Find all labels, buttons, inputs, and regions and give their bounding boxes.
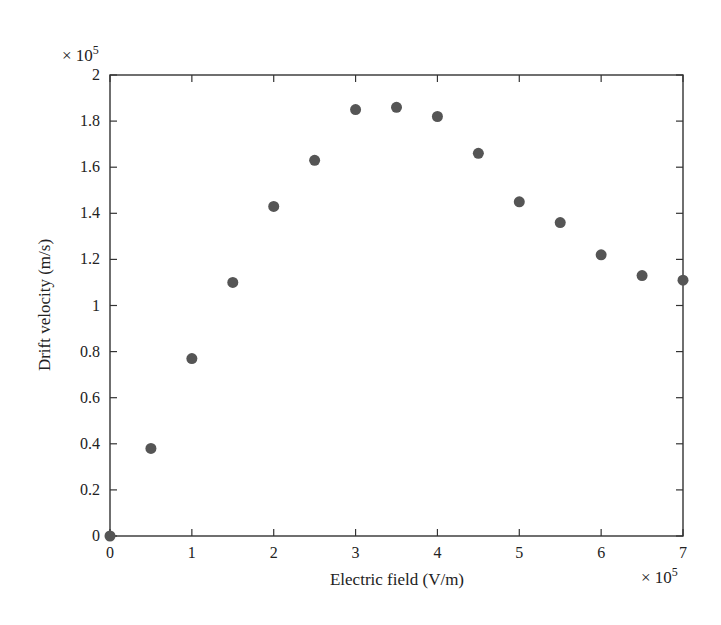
data-point bbox=[432, 111, 443, 122]
data-point bbox=[186, 353, 197, 364]
data-point bbox=[678, 275, 689, 286]
data-point bbox=[309, 155, 320, 166]
data-point bbox=[555, 217, 566, 228]
y-tick-label: 2 bbox=[92, 66, 100, 83]
y-tick-label: 1.2 bbox=[80, 250, 100, 267]
x-tick-label: 0 bbox=[106, 544, 114, 561]
y-tick-label: 1.8 bbox=[80, 112, 100, 129]
x-tick-label: 6 bbox=[597, 544, 605, 561]
y-tick-label: 1 bbox=[92, 297, 100, 314]
y-tick-label: 1.4 bbox=[80, 204, 100, 221]
y-tick-label: 0.8 bbox=[80, 343, 100, 360]
x-axis-label: Electric field (V/m) bbox=[330, 570, 464, 589]
axis-ticks bbox=[110, 75, 683, 536]
x-tick-label: 1 bbox=[188, 544, 196, 561]
data-points bbox=[105, 102, 689, 542]
data-point bbox=[145, 443, 156, 454]
y-tick-label: 0 bbox=[92, 527, 100, 544]
data-point bbox=[637, 270, 648, 281]
x-tick-label: 4 bbox=[433, 544, 441, 561]
x-tick-label: 2 bbox=[270, 544, 278, 561]
data-point bbox=[227, 277, 238, 288]
y-tick-label: 0.4 bbox=[80, 435, 100, 452]
y-axis-tick-labels: 00.20.40.60.811.21.41.61.82 bbox=[80, 66, 100, 544]
y-tick-label: 0.6 bbox=[80, 389, 100, 406]
y-tick-label: 0.2 bbox=[80, 481, 100, 498]
data-point bbox=[268, 201, 279, 212]
x-tick-label: 3 bbox=[352, 544, 360, 561]
data-point bbox=[350, 104, 361, 115]
x-tick-label: 7 bbox=[679, 544, 687, 561]
plot-frame bbox=[110, 75, 683, 536]
data-point bbox=[473, 148, 484, 159]
scatter-chart: 00.20.40.60.811.21.41.61.82 01234567 × 1… bbox=[0, 0, 721, 625]
data-point bbox=[105, 531, 116, 542]
x-axis-tick-labels: 01234567 bbox=[106, 544, 687, 561]
y-axis-label: Drift velocity (m/s) bbox=[35, 239, 54, 371]
data-point bbox=[596, 249, 607, 260]
data-point bbox=[514, 196, 525, 207]
x-tick-label: 5 bbox=[515, 544, 523, 561]
y-axis-multiplier: × 105 bbox=[62, 43, 99, 65]
y-tick-label: 1.6 bbox=[80, 158, 100, 175]
x-axis-multiplier: × 105 bbox=[641, 565, 678, 587]
data-point bbox=[391, 102, 402, 113]
